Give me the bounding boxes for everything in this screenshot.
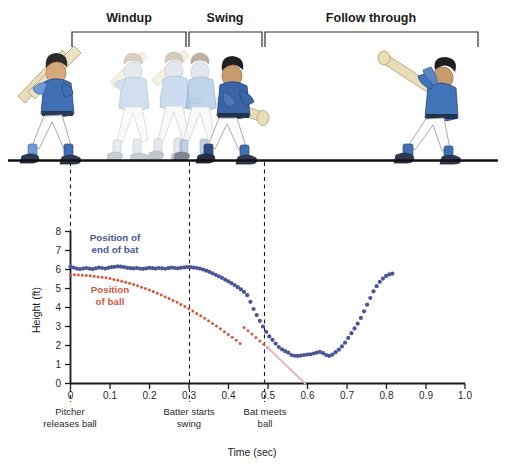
batter-sequence-illustration	[8, 46, 498, 164]
data-point	[85, 274, 88, 277]
phase-brackets: Windup Swing Follow through	[72, 11, 478, 47]
data-point	[242, 290, 246, 294]
data-point	[101, 276, 104, 279]
data-point	[164, 295, 167, 298]
annotation-bat-line1: Position of	[90, 232, 141, 243]
y-tick-7: 7	[55, 245, 61, 256]
event-1-line1: Batter starts	[163, 406, 214, 417]
data-point	[359, 316, 363, 320]
data-point	[362, 309, 366, 313]
y-tick-6: 6	[55, 264, 61, 275]
y-tick-0: 0	[55, 378, 61, 389]
data-point	[183, 305, 186, 308]
data-point	[215, 325, 218, 328]
data-point	[140, 286, 143, 289]
data-point	[251, 307, 255, 311]
data-point	[258, 339, 261, 342]
data-point	[136, 284, 139, 287]
x-tick-5: 0.5	[261, 390, 275, 401]
data-point	[239, 342, 242, 345]
data-point	[81, 274, 84, 277]
batter-figure-stance	[18, 46, 81, 164]
phase-bracket-swing	[189, 32, 262, 47]
data-point	[352, 326, 356, 330]
event-0-line2: releases ball	[43, 418, 96, 429]
data-point	[365, 303, 369, 307]
data-point	[148, 289, 151, 292]
data-point	[211, 322, 214, 325]
data-point	[337, 348, 341, 352]
data-point	[247, 329, 250, 332]
phase-bracket-follow-through	[265, 32, 478, 47]
phase-label-swing: Swing	[207, 11, 244, 25]
data-point	[108, 277, 111, 280]
y-tick-1: 1	[55, 359, 61, 370]
annotation-ball-line2: of ball	[96, 296, 125, 307]
phase-label-follow-through: Follow through	[326, 11, 416, 25]
data-point	[378, 280, 382, 284]
data-point	[250, 333, 253, 336]
data-point	[258, 319, 262, 323]
data-point	[97, 275, 100, 278]
data-point	[274, 342, 278, 346]
data-point	[179, 303, 182, 306]
data-point	[255, 313, 259, 317]
annotation-ball-line1: Position	[91, 284, 130, 295]
data-point	[187, 307, 190, 310]
y-axis-tick-labels: 0 1 2 3 4 5 6 7 8	[55, 226, 61, 389]
y-axis-title: Height (ft)	[30, 287, 42, 333]
event-connector-lines	[71, 162, 265, 383]
y-tick-4: 4	[55, 302, 61, 313]
data-point	[223, 330, 226, 333]
x-tick-7: 0.7	[340, 390, 354, 401]
data-point	[144, 287, 147, 290]
data-point	[203, 317, 206, 320]
data-point	[120, 280, 123, 283]
data-point	[116, 279, 119, 282]
event-2-line2: ball	[258, 418, 273, 429]
y-tick-3: 3	[55, 321, 61, 332]
x-tick-6: 0.6	[301, 390, 315, 401]
data-point	[152, 290, 155, 293]
data-point	[254, 336, 257, 339]
data-point	[267, 334, 271, 338]
data-point	[176, 301, 179, 304]
data-point	[390, 272, 394, 276]
data-point	[112, 278, 115, 281]
data-point	[207, 319, 210, 322]
x-tick-3: 0.3	[182, 390, 196, 401]
x-tick-4: 0.4	[222, 390, 236, 401]
data-point	[219, 327, 222, 330]
x-tick-0: 0	[68, 390, 74, 401]
data-point	[235, 339, 238, 342]
event-captions: Pitcher releases ball Batter starts swin…	[43, 406, 286, 429]
y-tick-8: 8	[55, 226, 61, 237]
data-point	[89, 274, 92, 277]
phase-label-windup: Windup	[106, 11, 152, 25]
x-tick-2: 0.2	[143, 390, 157, 401]
data-point	[199, 314, 202, 317]
data-point	[231, 336, 234, 339]
data-point	[132, 283, 135, 286]
data-point	[262, 343, 265, 346]
data-point	[371, 289, 375, 293]
data-point	[243, 326, 246, 329]
data-point	[172, 299, 175, 302]
x-axis-tick-labels: 0 0.1 0.2 0.3 0.4 0.5 0.6 0.7 0.8 0.9 1.…	[68, 390, 473, 401]
data-point	[93, 275, 96, 278]
y-tick-2: 2	[55, 340, 61, 351]
chart-series-layer	[68, 264, 394, 383]
x-axis-title: Time (sec)	[227, 446, 276, 458]
data-point	[245, 293, 249, 297]
series-0	[68, 264, 394, 358]
data-point	[105, 276, 108, 279]
figure-canvas: Windup Swing Follow through	[0, 0, 505, 467]
x-tick-10: 1.0	[458, 390, 472, 401]
data-point	[77, 274, 80, 277]
y-tick-5: 5	[55, 283, 61, 294]
data-point	[191, 310, 194, 313]
x-tick-9: 0.9	[419, 390, 433, 401]
data-point	[73, 273, 76, 276]
data-point	[195, 312, 198, 315]
data-point	[168, 297, 171, 300]
